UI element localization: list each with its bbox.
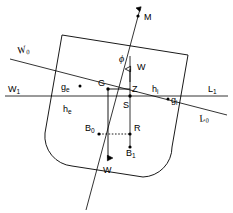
label-buoyancy-upright: B0 (85, 123, 95, 134)
label-heel-angle: ϕ (119, 53, 124, 64)
label-waterline-l1: L1 (208, 84, 217, 95)
label-point-z: Z (132, 84, 138, 94)
label-freeboard-emerged: he (63, 104, 72, 115)
label-point-r: R (134, 123, 141, 133)
point-R-marker (128, 132, 131, 135)
label-waterline-w0: W0 (16, 42, 31, 57)
label-centre-of-gravity: G (98, 78, 105, 88)
label-freeboard-immersed: hi (152, 84, 158, 95)
ship-centreline-mast (86, 9, 140, 210)
label-waterline-l0: L0 (197, 111, 210, 125)
point-B0-marker (97, 132, 100, 135)
label-weight-down: W (103, 165, 112, 175)
label-waterline-w1: W1 (8, 84, 21, 95)
label-buoyancy-heeled: B1 (126, 148, 136, 159)
point-ge-marker (79, 85, 82, 88)
label-weight-up: W (137, 62, 146, 72)
point-G-marker (106, 87, 109, 90)
waterline-upright-W0L0 (10, 59, 227, 115)
point-gi-marker (167, 98, 170, 101)
label-metacentre: M (144, 12, 152, 22)
point-S-marker (128, 94, 131, 97)
diagram-canvas: M ϕ W G Z S R B0 B1 W W0 L0 W1 L1 he hi (0, 0, 233, 213)
label-centroid-immersed: gi (171, 95, 177, 106)
ship-stability-diagram: M ϕ W G Z S R B0 B1 W W0 L0 W1 L1 he hi (0, 0, 233, 213)
point-M-marker (136, 14, 139, 17)
label-point-s: S (123, 100, 129, 110)
label-centroid-emerged: ge (61, 82, 70, 93)
